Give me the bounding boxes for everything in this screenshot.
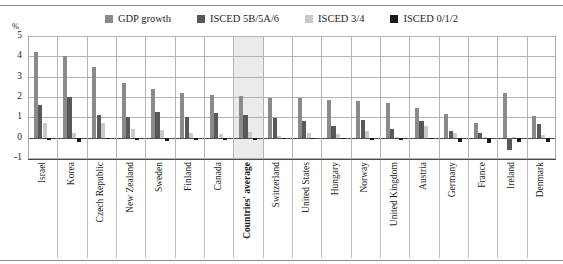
legend-label: ISCED 3/4 (318, 14, 364, 25)
legend-item-isced-0-1-2: ISCED 0/1/2 (390, 14, 458, 25)
y-axis-tick-label: 4 (17, 52, 22, 62)
y-axis-tick-label: 0 (17, 133, 22, 143)
bar (106, 138, 110, 140)
y-axis-unit: % (12, 22, 19, 31)
x-axis-tick-label: Countries' average (243, 162, 253, 239)
y-axis-tick-label: 5 (17, 31, 22, 41)
bars-layer (28, 36, 556, 158)
bar (487, 138, 491, 143)
bar (419, 121, 423, 137)
bar (97, 115, 101, 137)
bar (189, 133, 193, 138)
bar (386, 103, 390, 138)
x-axis-tick-label: Denmark (536, 162, 546, 197)
bar (517, 138, 521, 142)
legend-item-gdp-growth: GDP growth (105, 14, 171, 25)
bar (223, 138, 227, 140)
bar (336, 134, 340, 138)
bar (77, 138, 81, 142)
bar (370, 138, 374, 140)
bar (239, 96, 243, 138)
bar (307, 133, 311, 138)
bar (365, 131, 369, 138)
bar (273, 118, 277, 137)
bar (424, 126, 428, 137)
legend-swatch-icon (390, 15, 398, 23)
category-separator (292, 160, 293, 258)
legend-label: ISCED 0/1/2 (403, 14, 458, 25)
bar (180, 93, 184, 138)
legend-item-isced-5b-5a-6: ISCED 5B/5A/6 (197, 14, 279, 25)
x-axis-tick-label: Israel (38, 162, 48, 183)
bar (135, 138, 139, 140)
category-separator (439, 160, 440, 258)
bar (395, 137, 399, 139)
bar (210, 95, 214, 138)
x-axis-tick-label: New Zealand (126, 162, 136, 213)
bar (47, 138, 51, 140)
bar (122, 83, 126, 138)
bar (160, 130, 164, 138)
bar (474, 123, 478, 137)
category-separator (175, 160, 176, 258)
bar (429, 138, 433, 140)
bar (399, 138, 403, 140)
bar (243, 115, 247, 137)
top-divider (0, 5, 563, 6)
bar (453, 133, 457, 138)
bar (361, 120, 365, 137)
bar (331, 126, 335, 137)
bar (126, 117, 130, 137)
category-separator (468, 160, 469, 258)
bar (541, 135, 545, 138)
bar (415, 108, 419, 137)
legend-swatch-icon (105, 15, 113, 23)
bar (131, 129, 135, 138)
category-separator (380, 160, 381, 258)
category-separator (263, 160, 264, 258)
x-axis-tick-label: United States (302, 162, 312, 213)
bar (277, 136, 281, 138)
bar (512, 137, 516, 139)
bar (155, 112, 159, 137)
bottom-divider (0, 260, 563, 261)
bar (92, 67, 96, 138)
category-separator (233, 160, 234, 258)
category-separator (497, 160, 498, 258)
y-axis-tick-label: -1 (14, 153, 22, 163)
legend-swatch-icon (305, 15, 313, 23)
bar (507, 138, 511, 150)
bar (165, 138, 169, 141)
x-axis-tick-label: Germany (448, 162, 458, 197)
bar (151, 89, 155, 138)
legend-item-isced-3-4: ISCED 3/4 (305, 14, 364, 25)
bar (185, 117, 189, 137)
bar (43, 123, 47, 137)
x-axis-tick-label: Czech Republic (96, 162, 106, 222)
x-axis-tick-label: Hungary (331, 162, 341, 195)
bar (327, 100, 331, 138)
bar (302, 121, 306, 137)
y-axis-tick-label: 1 (17, 113, 22, 123)
bar (219, 134, 223, 138)
bar (341, 138, 345, 140)
bar (38, 105, 42, 138)
bar (546, 138, 550, 142)
bar (311, 138, 315, 140)
bar (390, 129, 394, 138)
bar (449, 131, 453, 138)
bar (248, 132, 252, 138)
y-axis-tick-label: 3 (17, 72, 22, 82)
bar (503, 93, 507, 138)
x-axis-tick-label: Switzerland (272, 162, 282, 207)
bar (268, 98, 272, 138)
category-separator (145, 160, 146, 258)
bar (356, 101, 360, 138)
x-axis-tick-label: Canada (214, 162, 224, 191)
x-axis-tick-label: France (478, 162, 488, 188)
x-axis-tick-label: United Kingdom (390, 162, 400, 226)
x-axis-labels: IsraelKoreaCzech RepublicNew ZealandSwed… (28, 160, 556, 264)
x-axis-tick-label: Sweden (155, 162, 165, 192)
bar (101, 123, 105, 137)
bar (537, 124, 541, 137)
